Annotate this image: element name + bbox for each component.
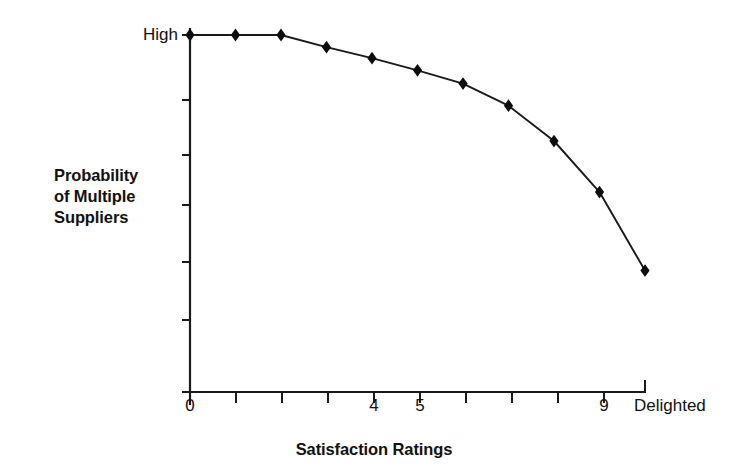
x-tick-label-9: 9 (599, 396, 608, 416)
series-markers (185, 29, 649, 277)
x-tick-label-0: 0 (185, 396, 194, 416)
data-point-marker (458, 77, 467, 90)
x-tick-label-delighted: Delighted (634, 396, 706, 416)
data-point-marker (322, 41, 331, 54)
chart-figure: Probability of Multiple Suppliers High (0, 0, 748, 476)
x-tick-label-4: 4 (369, 396, 378, 416)
y-axis-ticks (182, 35, 190, 320)
x-tick-label-5: 5 (415, 396, 424, 416)
data-point-marker (504, 99, 513, 112)
x-axis-title: Satisfaction Ratings (0, 440, 748, 459)
data-point-marker (413, 64, 422, 77)
data-point-marker (367, 52, 376, 65)
data-point-marker (231, 29, 240, 42)
data-point-marker (185, 29, 194, 42)
data-point-marker (276, 29, 285, 42)
